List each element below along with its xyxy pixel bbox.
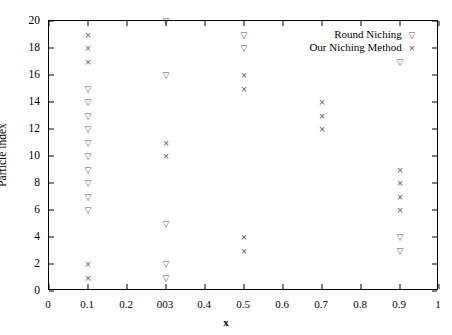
y-axis-tick-right bbox=[432, 264, 437, 265]
cross-marker: × bbox=[162, 138, 169, 147]
triangle-down-marker: ▽ bbox=[163, 260, 170, 269]
cross-marker: × bbox=[84, 260, 91, 269]
triangle-down-marker: ▽ bbox=[163, 71, 170, 80]
triangle-down-marker: ▽ bbox=[241, 30, 248, 39]
y-axis-tick bbox=[49, 237, 54, 238]
x-axis-tick-label: 0.9 bbox=[392, 298, 406, 310]
triangle-down-marker: ▽ bbox=[163, 273, 170, 282]
cross-marker: × bbox=[396, 192, 403, 201]
x-axis-tick bbox=[127, 284, 128, 289]
y-axis-tick-label: 8 bbox=[8, 176, 40, 188]
cross-marker: × bbox=[318, 98, 325, 107]
triangle-down-marker: ▽ bbox=[85, 111, 92, 120]
cross-marker: × bbox=[84, 44, 91, 53]
triangle-down-marker: ▽ bbox=[397, 233, 404, 242]
data-points-layer: ▽▽▽▽▽▽▽▽▽▽▽▽▽▽▽▽▽▽▽▽×××××××××××××××××× bbox=[49, 21, 437, 289]
y-axis-tick-label: 10 bbox=[8, 149, 40, 161]
cross-marker: × bbox=[318, 125, 325, 134]
legend-entry: Our Niching Method bbox=[49, 41, 402, 53]
cross-marker: × bbox=[396, 179, 403, 188]
y-axis-tick bbox=[49, 183, 54, 184]
x-axis-tick bbox=[400, 284, 401, 289]
cross-marker: × bbox=[396, 206, 403, 215]
x-axis-tick-top bbox=[322, 21, 323, 26]
triangle-down-marker: ▽ bbox=[85, 125, 92, 134]
x-axis-tick bbox=[439, 284, 440, 289]
y-axis-tick-right bbox=[432, 156, 437, 157]
y-axis-title: Particle index bbox=[0, 123, 8, 187]
triangle-down-marker: ▽ bbox=[397, 246, 404, 255]
triangle-down-marker: ▽ bbox=[163, 219, 170, 228]
cross-marker: × bbox=[84, 57, 91, 66]
y-axis-tick bbox=[49, 156, 54, 157]
triangle-down-marker: ▽ bbox=[85, 84, 92, 93]
legend-triangle-down-marker: ▽ bbox=[408, 30, 415, 39]
y-axis-tick-right bbox=[432, 210, 437, 211]
y-axis-tick-right bbox=[432, 48, 437, 49]
x-axis-tick bbox=[283, 284, 284, 289]
y-axis-tick-right bbox=[432, 129, 437, 130]
x-axis-tick bbox=[166, 284, 167, 289]
x-axis-tick-top bbox=[439, 21, 440, 26]
x-axis-tick-top bbox=[205, 21, 206, 26]
x-axis-tick-label: 0.5 bbox=[236, 298, 250, 310]
x-axis-tick-top bbox=[88, 21, 89, 26]
x-axis-tick-top bbox=[361, 21, 362, 26]
y-axis-tick bbox=[49, 129, 54, 130]
x-axis-tick bbox=[49, 284, 50, 289]
cross-marker: × bbox=[318, 111, 325, 120]
triangle-down-marker: ▽ bbox=[85, 98, 92, 107]
x-axis-tick-top bbox=[49, 21, 50, 26]
x-axis-tick bbox=[361, 284, 362, 289]
y-axis-tick bbox=[49, 21, 54, 22]
cross-marker: × bbox=[84, 273, 91, 282]
legend-label: Our Niching Method bbox=[309, 41, 401, 53]
y-axis-tick-label: 2 bbox=[8, 257, 40, 269]
triangle-down-marker: ▽ bbox=[85, 165, 92, 174]
x-axis-tick-top bbox=[283, 21, 284, 26]
y-axis-tick-label: 6 bbox=[8, 203, 40, 215]
x-axis-tick-label: 0 bbox=[45, 298, 51, 310]
y-axis-tick bbox=[49, 75, 54, 76]
y-axis-tick-label: 14 bbox=[8, 95, 40, 107]
y-axis-tick-right bbox=[432, 183, 437, 184]
x-axis-tick-label: 1 bbox=[435, 298, 441, 310]
x-axis-title: x bbox=[0, 316, 452, 328]
y-axis-tick-right bbox=[432, 291, 437, 292]
y-axis-tick bbox=[49, 48, 54, 49]
x-axis-tick-label: 0.1 bbox=[80, 298, 94, 310]
x-axis-tick bbox=[322, 284, 323, 289]
scatter-plot-figure: ▽▽▽▽▽▽▽▽▽▽▽▽▽▽▽▽▽▽▽▽×××××××××××××××××× ▽… bbox=[0, 0, 452, 335]
y-axis-tick bbox=[49, 291, 54, 292]
cross-marker: × bbox=[240, 246, 247, 255]
y-axis-tick-label: 16 bbox=[8, 68, 40, 80]
triangle-down-marker: ▽ bbox=[397, 57, 404, 66]
x-axis-tick-label: 0.7 bbox=[314, 298, 328, 310]
y-axis-tick-label: 4 bbox=[8, 230, 40, 242]
plot-area: ▽▽▽▽▽▽▽▽▽▽▽▽▽▽▽▽▽▽▽▽×××××××××××××××××× ▽… bbox=[48, 20, 438, 290]
legend-label: Round Niching bbox=[334, 28, 402, 40]
y-axis-tick bbox=[49, 210, 54, 211]
cross-marker: × bbox=[162, 152, 169, 161]
triangle-down-marker: ▽ bbox=[85, 206, 92, 215]
x-axis-tick bbox=[205, 284, 206, 289]
y-axis-tick-label: 12 bbox=[8, 122, 40, 134]
y-axis-tick-label: 20 bbox=[8, 14, 40, 26]
y-axis-tick-right bbox=[432, 102, 437, 103]
x-axis-tick bbox=[244, 284, 245, 289]
cross-marker: × bbox=[240, 71, 247, 80]
triangle-down-marker: ▽ bbox=[85, 138, 92, 147]
triangle-down-marker: ▽ bbox=[241, 44, 248, 53]
cross-marker: × bbox=[240, 233, 247, 242]
x-axis-tick-label: 0.8 bbox=[353, 298, 367, 310]
y-axis-tick-label: 0 bbox=[8, 284, 40, 296]
x-axis-tick-label: 0.2 bbox=[119, 298, 133, 310]
cross-marker: × bbox=[396, 165, 403, 174]
x-axis-tick-top bbox=[166, 21, 167, 26]
legend-entry: Round Niching bbox=[49, 28, 402, 40]
y-axis-tick-label: 18 bbox=[8, 41, 40, 53]
cross-marker: × bbox=[84, 30, 91, 39]
legend-layer: ▽Round Niching×Our Niching Method bbox=[49, 21, 437, 289]
triangle-down-marker: ▽ bbox=[85, 192, 92, 201]
x-axis-tick-top bbox=[400, 21, 401, 26]
